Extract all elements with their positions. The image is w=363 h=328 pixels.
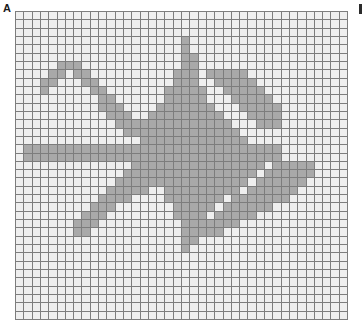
grid-cell-empty — [207, 62, 215, 70]
grid-cell-filled — [207, 154, 215, 162]
grid-cell-empty — [240, 45, 248, 53]
grid-cell-empty — [99, 29, 107, 37]
grid-cell-filled — [265, 95, 273, 103]
grid-cell-empty — [165, 287, 173, 295]
grid-cell-filled — [199, 195, 207, 203]
grid-cell-filled — [207, 170, 215, 178]
grid-cell-filled — [74, 220, 82, 228]
grid-cell-empty — [49, 187, 57, 195]
grid-cell-filled — [248, 154, 256, 162]
grid-cell-empty — [282, 70, 290, 78]
grid-cell-empty — [99, 120, 107, 128]
grid-cell-empty — [315, 278, 323, 286]
grid-cell-empty — [232, 112, 240, 120]
grid-cell-empty — [282, 54, 290, 62]
grid-cell-filled — [298, 178, 306, 186]
grid-cell-empty — [282, 278, 290, 286]
grid-cell-empty — [24, 37, 32, 45]
grid-cell-filled — [116, 120, 124, 128]
grid-cell-empty — [58, 37, 66, 45]
grid-cell-empty — [24, 104, 32, 112]
grid-cell-empty — [124, 295, 132, 303]
grid-cell-empty — [24, 245, 32, 253]
grid-cell-empty — [273, 287, 281, 295]
grid-cell-empty — [149, 312, 157, 320]
grid-cell-empty — [16, 270, 24, 278]
grid-cell-empty — [99, 12, 107, 20]
grid-cell-empty — [82, 203, 90, 211]
grid-cell-empty — [132, 262, 140, 270]
grid-cell-empty — [132, 220, 140, 228]
grid-cell-empty — [41, 287, 49, 295]
grid-cell-empty — [74, 287, 82, 295]
grid-cell-empty — [107, 79, 115, 87]
grid-cell-empty — [124, 203, 132, 211]
grid-cell-filled — [190, 212, 198, 220]
grid-cell-empty — [91, 312, 99, 320]
grid-cell-empty — [107, 278, 115, 286]
grid-cell-empty — [290, 12, 298, 20]
grid-cell-empty — [33, 162, 41, 170]
grid-cell-empty — [33, 45, 41, 53]
grid-cell-empty — [240, 228, 248, 236]
grid-cell-filled — [182, 237, 190, 245]
grid-cell-empty — [91, 12, 99, 20]
grid-cell-empty — [66, 303, 74, 311]
grid-cell-filled — [190, 203, 198, 211]
grid-cell-filled — [215, 112, 223, 120]
grid-cell-empty — [282, 129, 290, 137]
grid-cell-empty — [265, 212, 273, 220]
grid-cell-filled — [257, 195, 265, 203]
grid-cell-empty — [58, 237, 66, 245]
grid-cell-empty — [91, 253, 99, 261]
grid-cell-empty — [66, 162, 74, 170]
grid-cell-empty — [340, 245, 348, 253]
grid-cell-filled — [165, 145, 173, 153]
grid-cell-empty — [16, 112, 24, 120]
grid-cell-filled — [199, 162, 207, 170]
grid-cell-empty — [132, 312, 140, 320]
grid-cell-empty — [33, 87, 41, 95]
grid-cell-empty — [215, 203, 223, 211]
grid-cell-filled — [265, 104, 273, 112]
grid-cell-empty — [290, 37, 298, 45]
grid-cell-empty — [315, 104, 323, 112]
grid-cell-empty — [298, 187, 306, 195]
grid-cell-empty — [82, 120, 90, 128]
grid-cell-empty — [41, 129, 49, 137]
grid-cell-empty — [207, 45, 215, 53]
grid-cell-empty — [74, 79, 82, 87]
grid-cell-empty — [315, 262, 323, 270]
grid-cell-empty — [66, 112, 74, 120]
grid-cell-empty — [240, 62, 248, 70]
grid-cell-empty — [273, 237, 281, 245]
grid-cell-filled — [282, 187, 290, 195]
grid-cell-empty — [107, 70, 115, 78]
grid-cell-empty — [248, 262, 256, 270]
grid-cell-empty — [323, 203, 331, 211]
grid-cell-empty — [157, 212, 165, 220]
grid-cell-filled — [157, 112, 165, 120]
grid-cell-empty — [157, 87, 165, 95]
grid-cell-filled — [91, 220, 99, 228]
grid-cell-empty — [74, 237, 82, 245]
grid-cell-empty — [307, 270, 315, 278]
grid-cell-filled — [74, 228, 82, 236]
grid-cell-empty — [315, 237, 323, 245]
grid-cell-empty — [157, 303, 165, 311]
grid-cell-empty — [124, 270, 132, 278]
grid-cell-empty — [257, 220, 265, 228]
grid-cell-empty — [340, 237, 348, 245]
grid-cell-empty — [66, 262, 74, 270]
grid-cell-empty — [132, 295, 140, 303]
grid-cell-empty — [141, 262, 149, 270]
grid-cell-empty — [265, 237, 273, 245]
grid-cell-filled — [240, 95, 248, 103]
grid-cell-empty — [282, 262, 290, 270]
grid-cell-empty — [340, 295, 348, 303]
grid-cell-empty — [107, 237, 115, 245]
grid-cell-filled — [190, 104, 198, 112]
grid-cell-empty — [41, 178, 49, 186]
grid-cell-empty — [58, 137, 66, 145]
grid-cell-filled — [174, 154, 182, 162]
